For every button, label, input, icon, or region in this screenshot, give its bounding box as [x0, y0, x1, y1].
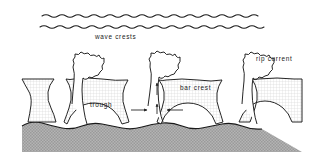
- wave-crest-group: [40, 15, 264, 29]
- rip-current-diagram: wave crests: [0, 0, 311, 158]
- sand-bar-1: [22, 79, 56, 122]
- label-trough: trough: [90, 101, 112, 109]
- wave-crest-line-2: [40, 26, 264, 29]
- diagram-canvas: wave crests: [0, 0, 311, 158]
- wave-crest-line-1: [42, 15, 258, 18]
- label-rip-current: rip current: [256, 55, 292, 63]
- sand-bar-group: [22, 78, 302, 124]
- label-wave-crests: wave crests: [94, 33, 136, 40]
- label-bar-crest: bar crest: [180, 84, 211, 91]
- seabed-fill: [22, 122, 302, 152]
